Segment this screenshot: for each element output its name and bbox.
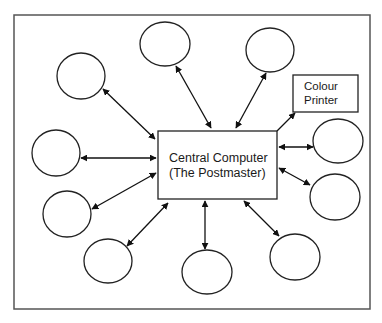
bidirectional-arrow-terminal-7-central [92,173,156,209]
terminal-4-circle [313,119,363,163]
terminal-6-circle [32,130,80,176]
arrow-central-printer [277,113,295,131]
colour-printer-line2: Printer [304,94,338,108]
bidirectional-arrow-terminal-10-central [244,201,279,236]
terminal-3-circle [246,28,294,72]
terminal-2-circle [140,22,190,66]
bidirectional-arrow-terminal-2-central [176,66,211,128]
colour-printer-line1: Colour [304,80,338,94]
terminal-1-circle [57,53,105,99]
central-computer-title: Central Computer [169,151,268,166]
terminal-5-circle [310,174,360,220]
bidirectional-arrow-terminal-5-central [279,168,310,185]
central-computer-label: Central Computer (The Postmaster) [169,151,268,181]
terminal-9-circle [182,250,232,294]
terminal-8-circle [84,239,132,283]
bidirectional-arrow-terminal-1-central [103,89,155,139]
colour-printer-label: Colour Printer [304,80,338,108]
terminal-7-circle [43,191,91,237]
central-computer-subtitle: (The Postmaster) [169,166,268,181]
bidirectional-arrow-terminal-8-central [127,203,168,246]
bidirectional-arrow-terminal-3-central [236,73,266,128]
terminal-10-circle [270,234,320,280]
